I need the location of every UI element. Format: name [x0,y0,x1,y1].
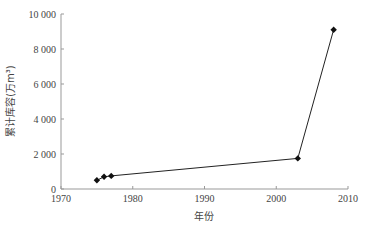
y-tick-label: 4 000 [34,114,57,125]
y-tick-label: 8 000 [34,44,57,55]
x-tick-label: 1980 [123,193,143,204]
y-tick-label: 10 000 [29,9,57,20]
diamond-marker [94,177,100,183]
x-tick-label: 1970 [51,193,71,204]
diamond-marker [295,155,301,161]
x-tick-label: 2010 [338,193,358,204]
y-axis-title: 累计库容(万m³) [4,65,16,137]
y-tick-label: 0 [51,184,56,195]
axes: 1970198019902000201002 0004 0006 0008 00… [29,9,359,205]
y-tick-label: 6 000 [34,79,57,90]
chart: 1970198019902000201002 0004 0006 0008 00… [0,0,369,233]
diamond-marker [108,173,114,179]
x-axis-title: 年份 [194,210,214,222]
x-tick-label: 2000 [266,193,286,204]
data-series [94,27,337,184]
diamond-marker [101,174,107,180]
y-tick-label: 2 000 [34,149,57,160]
x-tick-label: 1990 [195,193,215,204]
diamond-marker [330,27,336,33]
